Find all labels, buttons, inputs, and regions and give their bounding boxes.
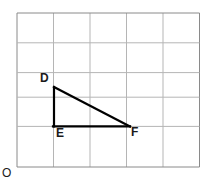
grid-and-triangle-svg [0, 0, 210, 185]
vertex-label-d: D [40, 72, 49, 84]
vertex-label-e: E [56, 127, 64, 139]
origin-label: O [2, 167, 11, 179]
hypotenuse-DF [54, 87, 130, 126]
triangle-DEF [53, 87, 130, 126]
grid-lines [17, 13, 200, 167]
vertex-label-f: F [131, 126, 138, 138]
figure-canvas: D E F O [0, 0, 210, 185]
